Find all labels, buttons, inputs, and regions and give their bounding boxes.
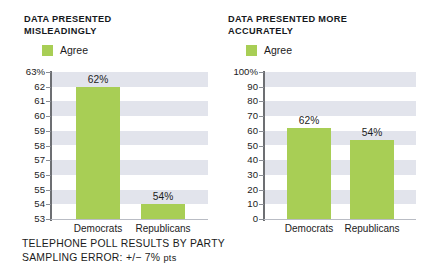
y-axis-tick-label: 40 — [216, 155, 258, 165]
y-axis-tick — [259, 219, 264, 220]
grid-band — [51, 160, 208, 175]
x-axis-category-label: Republicans — [123, 223, 203, 234]
y-axis-tick — [46, 101, 51, 102]
y-axis-tick-label: 55 — [3, 185, 45, 195]
bar-value-label: 62% — [68, 74, 128, 85]
caption-sampling-error: SAMPLING ERROR: +/− 7% pts — [22, 251, 176, 265]
y-axis-tick — [46, 87, 51, 88]
y-axis-tick-label: 57 — [3, 155, 45, 165]
page-title-right: DATA PRESENTED MORE ACCURATELY — [228, 13, 418, 37]
legend-label-agree-right: Agree — [264, 45, 292, 56]
caption-sampling-error-value: +/− 7% — [126, 252, 164, 263]
y-axis-tick-label: 80 — [216, 96, 258, 106]
grid-band — [51, 131, 208, 146]
y-axis-tick — [259, 175, 264, 176]
y-axis-tick — [46, 190, 51, 191]
legend-swatch-agree-right — [246, 45, 257, 56]
y-axis-tick — [259, 204, 264, 205]
legend-left: Agree — [42, 45, 88, 56]
y-axis-tick-label: 10 — [216, 199, 258, 209]
chart-panel-misleading: DATA PRESENTED MISLEADINGLY Agree 535455… — [0, 0, 212, 268]
y-axis-tick-label: 53 — [3, 214, 45, 224]
bar-value-label: 54% — [133, 191, 193, 202]
grid-band — [51, 101, 208, 116]
caption-sampling-error-suffix: pts — [163, 253, 176, 263]
y-axis-tick — [259, 101, 264, 102]
y-axis-tick — [259, 190, 264, 191]
y-axis-tick — [259, 160, 264, 161]
y-axis-tick-label: 62 — [3, 82, 45, 92]
x-axis-line-right — [264, 219, 416, 220]
y-axis-tick-label: 61 — [3, 96, 45, 106]
y-axis-tick-label: 60 — [216, 126, 258, 136]
bar-democrats — [287, 128, 331, 219]
x-axis-category-label: Republicans — [332, 223, 412, 234]
caption-poll-results: TELEPHONE POLL RESULTS BY PARTY — [22, 237, 225, 250]
y-axis-tick-label: 58 — [3, 141, 45, 151]
y-axis-tick-label: 0 — [216, 214, 258, 224]
y-axis-tick — [46, 146, 51, 147]
y-axis-tick — [46, 131, 51, 132]
y-axis-tick-label: 100% — [216, 67, 258, 77]
bar-value-label: 54% — [342, 127, 402, 138]
y-axis-tick — [46, 116, 51, 117]
bar-value-label: 62% — [279, 115, 339, 126]
y-axis-tick — [259, 131, 264, 132]
y-axis-tick-label: 63% — [3, 67, 45, 77]
y-axis-tick — [46, 175, 51, 176]
y-axis-tick-label: 50 — [216, 141, 258, 151]
plot-area-right — [264, 72, 416, 219]
y-axis-tick-label: 54 — [3, 199, 45, 209]
legend-swatch-agree-left — [42, 45, 53, 56]
y-axis-tick — [46, 219, 51, 220]
legend-label-agree-left: Agree — [60, 45, 88, 56]
y-axis-tick-label: 60 — [3, 111, 45, 121]
y-axis-tick-label: 70 — [216, 111, 258, 121]
y-axis-tick — [46, 72, 51, 73]
grid-band — [264, 72, 416, 87]
x-axis-line-left — [51, 219, 208, 220]
y-axis-tick — [259, 72, 264, 73]
y-axis-tick — [46, 160, 51, 161]
page-title-left: DATA PRESENTED MISLEADINGLY — [24, 13, 204, 37]
y-axis-tick-label: 90 — [216, 82, 258, 92]
y-axis-tick-label: 20 — [216, 185, 258, 195]
bar-republicans — [141, 204, 185, 219]
y-axis-tick-label: 30 — [216, 170, 258, 180]
y-axis-tick — [259, 146, 264, 147]
y-axis-tick — [259, 87, 264, 88]
y-axis-tick-label: 59 — [3, 126, 45, 136]
y-axis-tick — [259, 116, 264, 117]
legend-right: Agree — [246, 45, 292, 56]
bar-republicans — [350, 140, 394, 219]
bar-democrats — [76, 87, 120, 219]
y-axis-tick — [46, 204, 51, 205]
caption-sampling-error-prefix: SAMPLING ERROR: — [22, 252, 126, 263]
y-axis-tick-label: 56 — [3, 170, 45, 180]
